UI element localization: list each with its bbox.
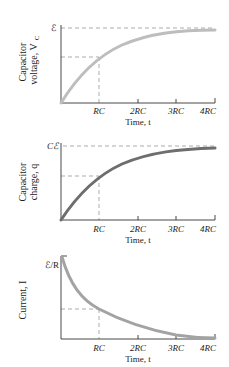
axes <box>61 143 215 220</box>
y-max-label: ℰ/R <box>45 260 59 270</box>
x-tick-1: RC <box>92 224 105 234</box>
y-axis-label: Capacitor charge, q <box>17 162 39 202</box>
rc-circuit-diagram: ℰ RC 2RC 3RC 4RC Time, t Capacitor volta… <box>0 0 229 367</box>
current-curve <box>62 257 215 338</box>
svg-text:C: C <box>33 35 41 40</box>
charge-chart: Cℰ RC 2RC 3RC 4RC Time, t Capacitor char… <box>17 141 217 245</box>
x-tick-4: 4RC <box>200 106 217 116</box>
x-axis-label: Time, t <box>125 354 151 364</box>
x-tick-3: 3RC <box>167 224 185 234</box>
voltage-curve <box>61 30 215 103</box>
y-max-label: Cℰ <box>47 141 60 151</box>
x-tick-2: 2RC <box>130 224 147 234</box>
y-axis-label: Current, I <box>17 281 28 320</box>
axes <box>61 25 215 103</box>
x-axis-label: Time, t <box>125 235 151 245</box>
svg-text:Capacitor: Capacitor <box>17 162 28 202</box>
svg-text:Capacitor: Capacitor <box>17 42 28 82</box>
svg-text:charge, q: charge, q <box>28 164 39 200</box>
charge-curve <box>61 148 215 220</box>
x-tick-3: 3RC <box>167 343 185 353</box>
x-tick-2: 2RC <box>130 106 147 116</box>
svg-text:Current, I: Current, I <box>17 281 28 320</box>
x-tick-2: 2RC <box>130 343 147 353</box>
x-tick-1: RC <box>92 106 105 116</box>
voltage-chart: ℰ RC 2RC 3RC 4RC Time, t Capacitor volta… <box>17 23 217 127</box>
svg-text:voltage, V: voltage, V <box>28 42 39 84</box>
x-axis-label: Time, t <box>125 117 151 127</box>
x-tick-1: RC <box>92 343 105 353</box>
x-tick-3: 3RC <box>167 106 185 116</box>
x-tick-4: 4RC <box>200 343 217 353</box>
x-tick-4: 4RC <box>200 224 217 234</box>
current-chart: ℰ/R RC 2RC 3RC 4RC Time, t Current, I <box>17 256 217 364</box>
y-max-label: ℰ <box>51 23 57 33</box>
y-axis-label: Capacitor voltage, V C <box>17 35 41 84</box>
